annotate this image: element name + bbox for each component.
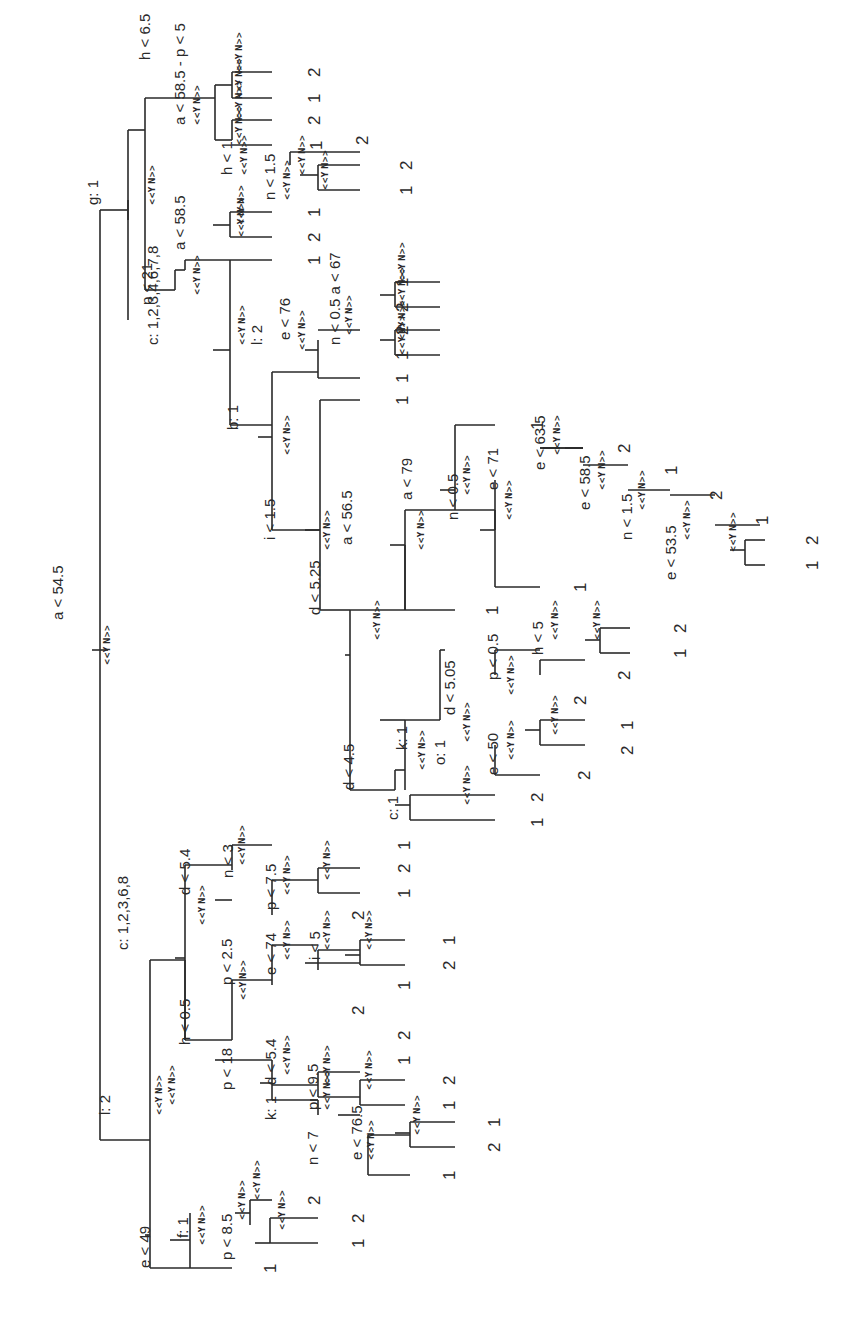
split-node-label: a < 79: [398, 458, 415, 500]
split-node-label: d < 5.4: [262, 1039, 279, 1085]
yes-no-marker: <<Y N>>: [147, 165, 157, 205]
split-node-label: h < 0.5: [176, 999, 193, 1045]
leaf-class-value: 1: [485, 1118, 504, 1127]
leaf-class-value: 2: [393, 326, 412, 335]
yes-no-marker: <<Y N>>: [192, 255, 202, 295]
split-node-label: g: 1: [84, 180, 101, 205]
yes-no-marker: <<Y N>>: [192, 85, 202, 125]
leaf-class-value: 2: [393, 303, 412, 312]
yes-no-markers: <<Y N>><<Y N>><<Y N>><<Y N>><<Y N>><<Y N…: [102, 32, 738, 1245]
leaf-class-value: 2: [707, 491, 726, 500]
yes-no-marker: <<Y N>>: [237, 1180, 247, 1220]
yes-no-marker: <<Y N>>: [277, 1190, 287, 1230]
split-node-label: e < 71: [484, 448, 501, 490]
leaf-class-value: 2: [615, 671, 634, 680]
leaf-class-value: 1: [393, 374, 412, 383]
yes-no-marker: <<Y N>>: [637, 470, 647, 510]
leaf-class-value: 2: [395, 1031, 414, 1040]
yes-no-marker: <<Y N>>: [592, 600, 602, 640]
leaf-class-value: 2: [485, 1143, 504, 1152]
leaf-class-value: 1: [395, 981, 414, 990]
split-node-label: p < 7.5: [262, 864, 279, 910]
leaf-class-value: 1: [440, 936, 459, 945]
split-node-label: n < 1.5: [261, 154, 278, 200]
yes-no-marker: <<Y N>>: [234, 105, 244, 145]
split-node-label: e < 58.5: [576, 455, 593, 510]
yes-no-marker: <<Y N>>: [102, 625, 112, 665]
yes-no-marker: <<Y N>>: [506, 655, 516, 695]
split-node-label: a < 58.5: [171, 195, 188, 250]
leaf-class-value: 1: [483, 606, 502, 615]
yes-no-marker: <<Y N>>: [238, 960, 248, 1000]
leaf-class-value: 1: [528, 818, 547, 827]
split-node-label: l: 2: [248, 325, 265, 345]
split-node-label: e < 53.5: [662, 525, 679, 580]
yes-no-marker: <<Y N>>: [282, 415, 292, 455]
split-node-label: c: 1,2,3,4,6,7,8: [144, 246, 161, 345]
leaf-class-value: 1: [395, 841, 414, 850]
yes-no-marker: <<Y N>>: [372, 600, 382, 640]
leaf-class-value: 1: [618, 721, 637, 730]
yes-no-marker: <<Y N>>: [282, 855, 292, 895]
yes-no-marker: <<Y N>>: [234, 32, 244, 72]
leaf-class-value: 1: [305, 94, 324, 103]
leaf-class-value: 1: [395, 889, 414, 898]
split-node-label: k: 1: [393, 726, 410, 750]
yes-no-marker: <<Y N>>: [252, 1160, 262, 1200]
yes-no-marker: <<Y N>>: [237, 305, 247, 345]
split-node-label: b: 1: [224, 405, 241, 430]
yes-no-marker: <<Y N>>: [417, 730, 427, 770]
split-node-label: i < 5: [306, 931, 323, 960]
leaf-class-value: 1: [753, 516, 772, 525]
leaf-class-value: 1: [803, 561, 822, 570]
split-node-label: p < 0.5: [484, 634, 501, 680]
yes-no-marker: <<Y N>>: [506, 720, 516, 760]
yes-no-marker: <<Y N>>: [366, 1120, 376, 1160]
split-node-label: f: 1: [174, 1217, 191, 1238]
split-node-label: a < 58.5 - p < 5: [171, 23, 188, 125]
yes-no-marker: <<Y N>>: [462, 765, 472, 805]
yes-no-marker: <<Y N>>: [462, 455, 472, 495]
yes-no-marker: <<Y N>>: [322, 510, 332, 550]
split-node-label: n < 0.5 a < 67: [326, 252, 343, 345]
yes-no-marker: <<Y N>>: [297, 310, 307, 350]
leaf-class-value: 2: [440, 1076, 459, 1085]
leaf-class-value: 1: [528, 421, 547, 430]
leaf-class-value: 2: [395, 864, 414, 873]
tree-leaf-classes: 2121221121122111121212111212212221121212…: [261, 68, 822, 1273]
split-node-label: l: 2: [96, 1095, 113, 1115]
leaf-class-value: 2: [671, 624, 690, 633]
leaf-class-value: 2: [349, 1006, 368, 1015]
split-node-label: h < 1: [218, 141, 235, 175]
leaf-class-value: 1: [393, 396, 412, 405]
split-node-label: i < 1.5: [261, 499, 278, 540]
yes-no-marker: <<Y N>>: [597, 450, 607, 490]
split-node-label: n < 0.5: [444, 474, 461, 520]
leaf-class-value: 2: [349, 911, 368, 920]
leaf-class-value: 2: [305, 1196, 324, 1205]
split-node-label: o: 1: [431, 740, 448, 765]
leaf-class-value: 1: [395, 1056, 414, 1065]
yes-no-marker: <<Y N>>: [167, 1065, 177, 1105]
leaf-class-value: 2: [571, 696, 590, 705]
split-node-label: h < 5: [529, 621, 546, 655]
tree-edges: [92, 72, 765, 1268]
split-node-label: d < 5.05: [441, 660, 458, 715]
split-node-label: e < 50: [484, 733, 501, 775]
leaf-class-value: 2: [440, 961, 459, 970]
split-node-label: p < 9.5: [304, 1064, 321, 1110]
leaf-class-value: 1: [393, 278, 412, 287]
decision-tree-diagram: a < 54.5g: 1l: 2h < 6.5p < 21a < 58.5 - …: [0, 0, 868, 1323]
leaf-class-value: 1: [261, 1264, 280, 1273]
split-node-label: p < 2.5: [218, 939, 235, 985]
split-node-label: d < 5.25: [306, 560, 323, 615]
split-node-label: e < 74: [262, 933, 279, 975]
leaf-class-value: 1: [671, 649, 690, 658]
split-node-label: n < 7: [304, 1131, 321, 1165]
yes-no-marker: <<Y N>>: [728, 512, 738, 552]
yes-no-marker: <<Y N>>: [550, 600, 560, 640]
split-node-label: a < 54.5: [49, 565, 66, 620]
yes-no-marker: <<Y N>>: [236, 197, 246, 237]
leaf-class-value: 2: [803, 536, 822, 545]
leaf-class-value: 2: [618, 746, 637, 755]
